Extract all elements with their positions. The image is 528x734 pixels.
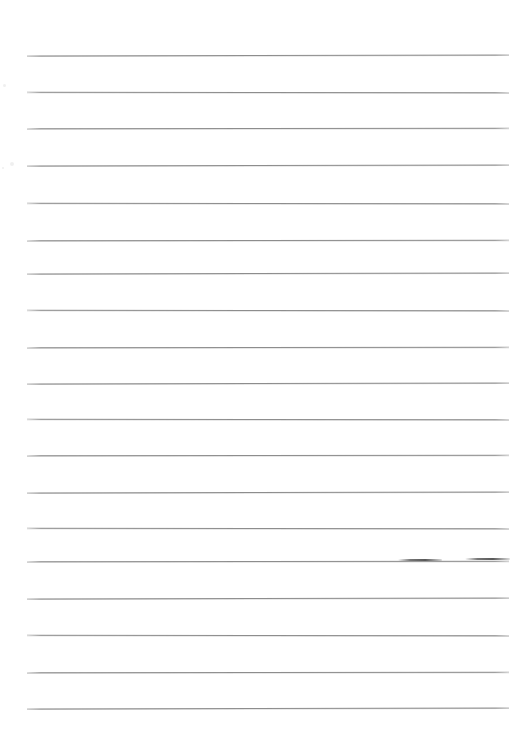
writing-area[interactable] <box>27 40 509 720</box>
scan-speck <box>2 167 4 169</box>
scanned-page <box>0 0 528 734</box>
scan-speck <box>3 84 6 87</box>
scan-speck <box>10 162 14 166</box>
